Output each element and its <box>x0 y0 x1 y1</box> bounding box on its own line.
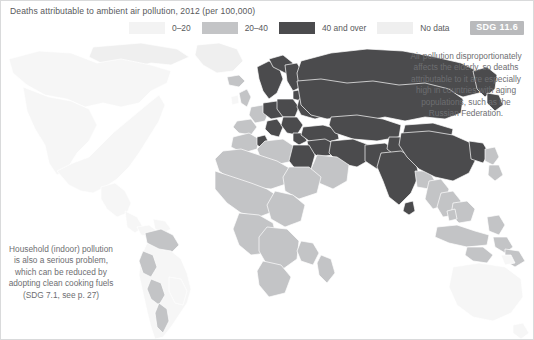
page-title: Deaths attributable to ambient air pollu… <box>10 6 255 16</box>
figure-container: Deaths attributable to ambient air pollu… <box>0 0 534 340</box>
legend-label-40-over: 40 and over <box>315 22 377 34</box>
status-badge: SDG 11.6 <box>470 21 524 35</box>
legend-swatch-20-40 <box>202 22 238 34</box>
legend-item-0-20: 0–20 <box>129 22 202 34</box>
legend-item-no-data: No data <box>377 22 460 34</box>
region-oceania <box>449 255 529 339</box>
legend-label-0-20: 0–20 <box>165 22 202 34</box>
legend-item-20-40: 20–40 <box>202 22 279 34</box>
region-north-atlantic <box>195 43 245 87</box>
legend-swatch-40-over <box>279 22 315 34</box>
legend-swatch-0-20 <box>129 22 165 34</box>
legend: 0–20 20–40 40 and over No data <box>129 22 461 34</box>
legend-label-no-data: No data <box>413 22 460 34</box>
legend-label-20-40: 20–40 <box>238 22 279 34</box>
annotation-left: Household (indoor) pollution is also a s… <box>7 244 115 301</box>
region-south-america <box>139 229 191 339</box>
legend-item-40-over: 40 and over <box>279 22 377 34</box>
legend-swatch-no-data <box>377 22 413 34</box>
region-north-america <box>9 43 189 237</box>
annotation-right: Air pollution disproportionately affects… <box>407 51 525 119</box>
